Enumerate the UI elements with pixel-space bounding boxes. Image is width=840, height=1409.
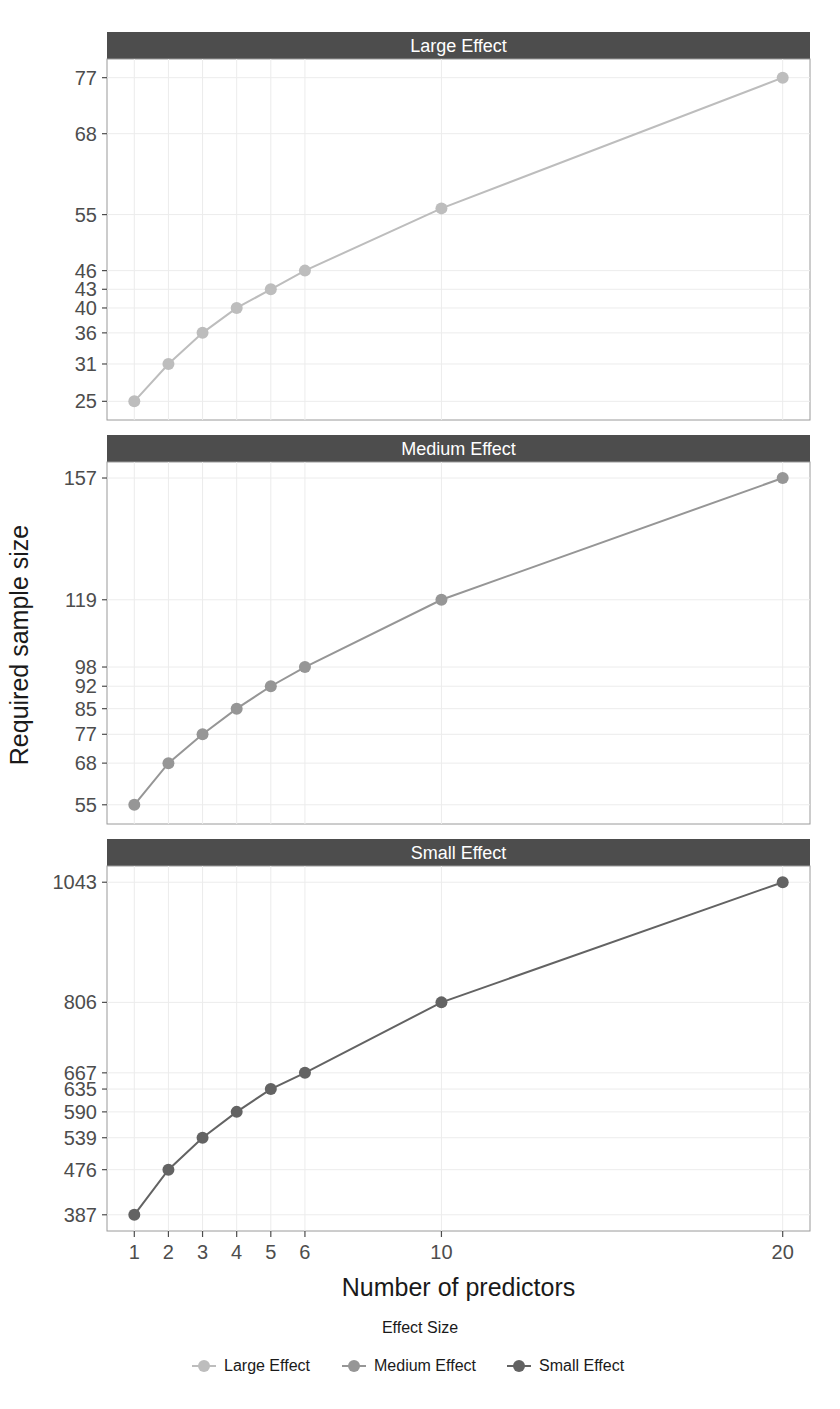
legend-label-3: Small Effect (539, 1357, 625, 1374)
data-point-x4-y40 (231, 302, 243, 314)
y-tick-label-476: 476 (64, 1159, 97, 1181)
x-tick-label-3: 3 (197, 1241, 208, 1263)
data-point-x6-y46 (299, 265, 311, 277)
x-tick-label-20: 20 (772, 1241, 794, 1263)
x-tick-label-6: 6 (299, 1241, 310, 1263)
panel-background-1 (107, 59, 810, 420)
x-tick-label-2: 2 (163, 1241, 174, 1263)
legend-title: Effect Size (382, 1319, 458, 1336)
y-tick-label-31: 31 (75, 353, 97, 375)
y-tick-label-387: 387 (64, 1204, 97, 1226)
y-axis-title: Required sample size (5, 525, 33, 765)
legend-key-marker-3 (513, 1360, 525, 1372)
data-point-x10-y806 (435, 996, 447, 1008)
y-tick-label-157: 157 (64, 467, 97, 489)
data-point-x6-y98 (299, 661, 311, 673)
facet-panels: Large Effect253136404346556877Medium Eff… (53, 32, 811, 1231)
y-tick-label-92: 92 (75, 675, 97, 697)
y-tick-label-85: 85 (75, 698, 97, 720)
chart-figure: Large Effect253136404346556877Medium Eff… (0, 0, 840, 1409)
panel-background-2 (107, 462, 810, 824)
legend-key-marker-1 (198, 1360, 210, 1372)
data-point-x20-y1043 (777, 876, 789, 888)
data-point-x20-y77 (777, 72, 789, 84)
data-point-x5-y635 (265, 1083, 277, 1095)
y-tick-label-55: 55 (75, 204, 97, 226)
legend-label-2: Medium Effect (374, 1357, 477, 1374)
y-tick-label-68: 68 (75, 752, 97, 774)
y-tick-label-98: 98 (75, 656, 97, 678)
data-point-x20-y157 (777, 472, 789, 484)
x-tick-label-4: 4 (231, 1241, 242, 1263)
data-point-x5-y43 (265, 283, 277, 295)
strip-label-1: Large Effect (410, 36, 507, 56)
data-point-x3-y539 (197, 1132, 209, 1144)
facet-panel-3: Small Effect3874765395906356678061043 (53, 839, 811, 1231)
strip-label-3: Small Effect (411, 843, 507, 863)
data-point-x2-y68 (162, 757, 174, 769)
data-point-x1-y25 (128, 395, 140, 407)
y-tick-label-36: 36 (75, 322, 97, 344)
faceted-line-chart: Large Effect253136404346556877Medium Eff… (0, 0, 840, 1409)
y-tick-label-77: 77 (75, 67, 97, 89)
y-axis-title: Required sample size (5, 525, 33, 765)
y-tick-label-25: 25 (75, 390, 97, 412)
x-axis-title: Number of predictors (342, 1273, 575, 1301)
y-tick-label-55: 55 (75, 794, 97, 816)
data-point-x6-y667 (299, 1067, 311, 1079)
data-point-x4-y85 (231, 703, 243, 715)
y-tick-label-539: 539 (64, 1127, 97, 1149)
x-tick-label-10: 10 (430, 1241, 452, 1263)
x-tick-label-5: 5 (265, 1241, 276, 1263)
y-tick-label-68: 68 (75, 123, 97, 145)
data-point-x5-y92 (265, 680, 277, 692)
data-point-x10-y56 (435, 202, 447, 214)
facet-panel-2: Medium Effect556877859298119157 (64, 435, 810, 824)
y-tick-label-1043: 1043 (53, 871, 98, 893)
data-point-x3-y36 (197, 327, 209, 339)
data-point-x1-y55 (128, 799, 140, 811)
data-point-x1-y387 (128, 1209, 140, 1221)
data-point-x10-y119 (435, 594, 447, 606)
facet-panel-1: Large Effect253136404346556877 (75, 32, 810, 420)
y-tick-label-77: 77 (75, 723, 97, 745)
data-point-x2-y476 (162, 1164, 174, 1176)
data-point-x2-y31 (162, 358, 174, 370)
strip-label-2: Medium Effect (401, 439, 516, 459)
y-tick-label-806: 806 (64, 991, 97, 1013)
y-tick-label-590: 590 (64, 1101, 97, 1123)
data-point-x3-y77 (197, 728, 209, 740)
legend-label-1: Large Effect (224, 1357, 311, 1374)
x-tick-label-1: 1 (129, 1241, 140, 1263)
y-tick-label-667: 667 (64, 1062, 97, 1084)
data-point-x4-y590 (231, 1106, 243, 1118)
y-tick-label-46: 46 (75, 260, 97, 282)
panel-background-3 (107, 866, 810, 1231)
y-tick-label-119: 119 (65, 589, 97, 611)
legend-key-marker-2 (348, 1360, 360, 1372)
